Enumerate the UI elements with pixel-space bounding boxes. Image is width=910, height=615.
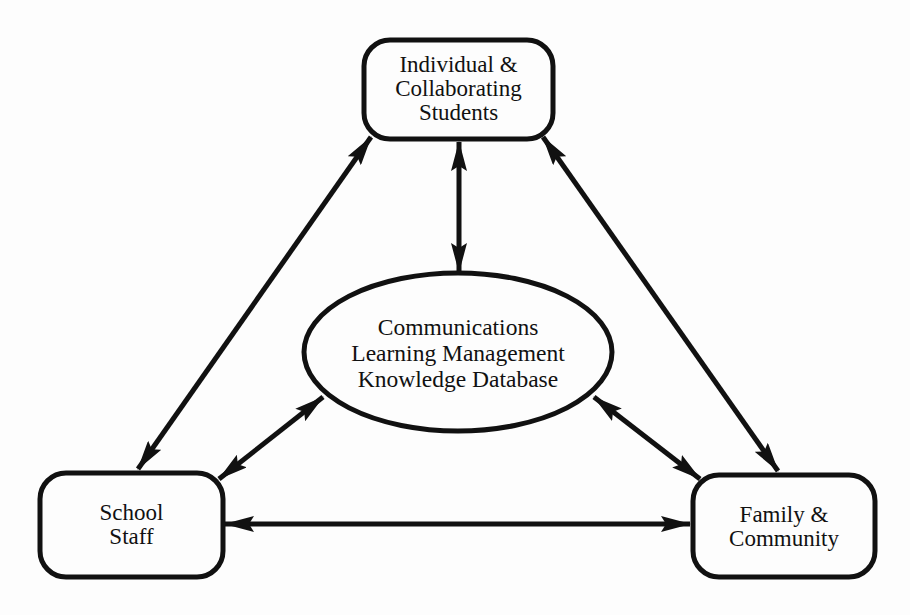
- node-center-ellipse: [304, 273, 612, 431]
- node-students-box: [364, 40, 553, 139]
- edge-center-staff: [219, 397, 323, 479]
- diagram-canvas: [0, 0, 910, 615]
- node-staff-box: [40, 473, 223, 577]
- node-family-box: [693, 475, 875, 577]
- edge-center-family: [594, 397, 700, 479]
